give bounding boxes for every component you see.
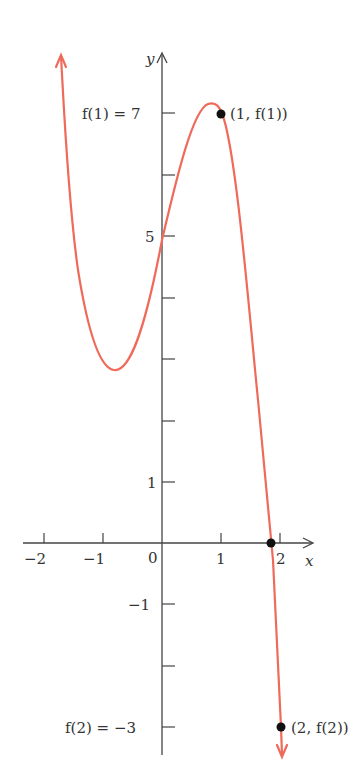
x-label-neg1: −1 <box>83 550 105 568</box>
y-ticks <box>162 113 175 727</box>
function-graph: y x f(1) = 7 5 1 −1 f(2) = −3 −2 −1 0 1 … <box>0 0 363 767</box>
function-curve <box>56 55 287 757</box>
point-root <box>267 539 276 548</box>
y-axis-label: y <box>145 50 155 68</box>
point-1-f1 <box>217 110 226 119</box>
marked-points <box>217 110 286 732</box>
point-2-f2 <box>277 723 286 732</box>
y-label-1: 1 <box>147 474 157 492</box>
y-label-f1: f(1) = 7 <box>82 105 140 123</box>
y-label-f2: f(2) = −3 <box>65 719 136 737</box>
y-label-5: 5 <box>145 228 155 246</box>
y-label-neg1: −1 <box>128 596 150 614</box>
point-label-2: (2, f(2)) <box>291 719 349 737</box>
x-axis-label: x <box>305 552 314 570</box>
x-label-neg2: −2 <box>24 550 46 568</box>
x-label-2: 2 <box>276 550 286 568</box>
x-label-1: 1 <box>216 550 226 568</box>
point-label-1: (1, f(1)) <box>230 105 288 123</box>
x-label-0: 0 <box>148 549 158 567</box>
y-axis <box>157 53 167 755</box>
